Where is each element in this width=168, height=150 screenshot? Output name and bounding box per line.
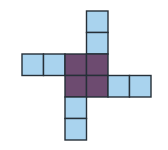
center-square (65, 54, 87, 76)
arm-square-right (130, 76, 152, 98)
arm-square-right (108, 76, 130, 98)
center-square (65, 76, 87, 98)
arm-square-bottom (65, 97, 87, 119)
square-net-diagram (0, 0, 168, 150)
arm-square-bottom (65, 119, 87, 141)
center-square (87, 54, 109, 76)
arm-square-left (22, 54, 44, 76)
center-square (87, 76, 109, 98)
arm-square-top (87, 33, 109, 55)
arm-square-top (87, 11, 109, 33)
arm-square-left (44, 54, 66, 76)
